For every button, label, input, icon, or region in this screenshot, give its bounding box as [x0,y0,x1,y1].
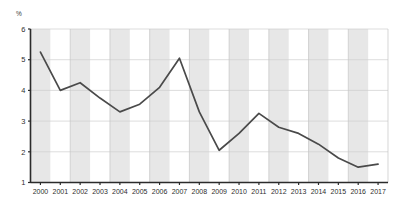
y-tick-label-4: 4 [21,86,25,95]
x-tick-label-2010: 2010 [231,188,247,195]
line-chart: 123456 200020012002200320042005200620072… [0,0,395,212]
x-tick-label-2014: 2014 [311,188,327,195]
y-tick-label-3: 3 [21,117,25,126]
x-tick-label-2008: 2008 [192,188,208,195]
band-2014 [309,29,329,183]
x-tick-label-2005: 2005 [132,188,148,195]
x-tick-label-2000: 2000 [33,188,49,195]
band-2012 [269,29,289,183]
x-tick-label-2004: 2004 [112,188,128,195]
chart-canvas: 123456 200020012002200320042005200620072… [0,0,395,212]
x-tick-label-2003: 2003 [92,188,108,195]
x-tick-label-2017: 2017 [370,188,386,195]
x-axis-ticks: 2000200120022003200420052006200720082009… [33,183,386,195]
x-tick-label-2015: 2015 [331,188,347,195]
band-2004 [110,29,130,183]
x-tick-label-2013: 2013 [291,188,307,195]
x-tick-label-2011: 2011 [251,188,266,195]
y-axis-ticks: 123456 [21,25,30,188]
x-tick-label-2001: 2001 [53,188,69,195]
band-2008 [189,29,209,183]
x-tick-label-2016: 2016 [350,188,366,195]
y-tick-label-6: 6 [21,25,25,34]
band-2002 [70,29,90,183]
x-tick-label-2012: 2012 [271,188,287,195]
band-2006 [150,29,170,183]
x-tick-label-2006: 2006 [152,188,168,195]
y-tick-label-5: 5 [21,55,25,64]
y-tick-label-1: 1 [21,178,25,187]
background-bands [31,29,369,183]
x-tick-label-2007: 2007 [172,188,188,195]
band-2016 [348,29,368,183]
unit-label: % [16,10,22,17]
x-tick-label-2009: 2009 [211,188,227,195]
y-tick-label-2: 2 [21,148,25,157]
x-tick-label-2002: 2002 [72,188,88,195]
band-2010 [229,29,249,183]
